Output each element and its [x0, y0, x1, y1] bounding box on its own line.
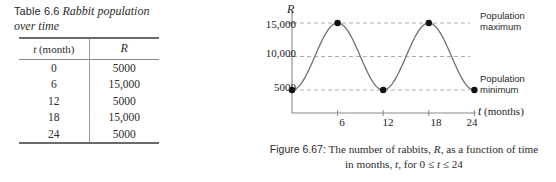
table-row: 0 5000: [19, 60, 159, 77]
figure-caption-line2-b: , for 0 ≤: [398, 158, 437, 170]
plot-area: R 15,000 10,000 5000 6 12 18 24 t (month…: [252, 0, 556, 140]
column-header-R: R: [89, 39, 159, 59]
cell-R: 5000: [89, 126, 159, 144]
table-number: Table 6.6: [14, 5, 60, 17]
y-tick-label-10000: 10,000: [252, 47, 296, 59]
x-tick-label-6: 6: [332, 116, 352, 128]
cell-t: 0: [19, 60, 89, 77]
annotation-min-line1: Population: [480, 74, 525, 85]
y-axis-label: R: [287, 2, 294, 17]
cell-R: 5000: [89, 60, 159, 77]
table-caption: Table 6.6 Rabbit population over time: [14, 4, 214, 34]
column-header-R-symbol: R: [121, 41, 128, 55]
cell-R: 15,000: [89, 109, 159, 126]
figure-caption: Figure 6.67: The number of rabbits, R, a…: [252, 142, 556, 171]
annotation-max-line1: Population: [480, 11, 525, 22]
figure-caption-line1-a: The number of rabbits,: [326, 143, 434, 155]
table-row: 18 15,000: [19, 109, 159, 126]
cell-t: 12: [19, 93, 89, 110]
figure-caption-line2-c: ≤ 24: [440, 158, 463, 170]
figure-caption-symbol-R: R: [434, 143, 441, 155]
annotation-population-maximum: Population maximum: [480, 11, 525, 32]
table-row: 12 5000: [19, 93, 159, 110]
data-point: [380, 87, 386, 93]
data-point: [334, 20, 340, 26]
cell-t: 24: [19, 126, 89, 144]
table-header-row: t (month) R: [19, 39, 159, 59]
cell-R: 15,000: [89, 76, 159, 93]
cell-t: 18: [19, 109, 89, 126]
annotation-min-line2: minimum: [480, 85, 525, 96]
figure-caption-line2-a: in months,: [345, 158, 395, 170]
x-axis-label-unit: (months): [481, 105, 523, 117]
figure-caption-line1-b: , as a function of time: [441, 143, 539, 155]
annotation-population-minimum: Population minimum: [480, 74, 525, 95]
column-header-t-unit: (month): [36, 43, 74, 55]
table-row: 6 15,000: [19, 76, 159, 93]
x-tick-label-18: 18: [426, 116, 446, 128]
table-block: Table 6.6 Rabbit population over time t …: [14, 4, 229, 34]
figure-block: R 15,000 10,000 5000 6 12 18 24 t (month…: [252, 0, 556, 182]
cell-R: 5000: [89, 93, 159, 110]
x-tick-label-12: 12: [378, 116, 398, 128]
table-rule-bottom: [19, 143, 159, 144]
data-point: [471, 87, 477, 93]
table-title-line2: over time: [14, 19, 214, 34]
y-tick-label-15000: 15,000: [252, 18, 296, 30]
y-tick-label-5000: 5000: [252, 81, 296, 93]
rabbit-population-table: t (month) R 0 5000 6 15,000 12 5000 18 1…: [19, 37, 159, 144]
figure-number: Figure 6.67:: [270, 143, 326, 155]
x-axis-label: t (months): [478, 104, 524, 119]
table-title-line1: Rabbit population: [62, 4, 149, 18]
cell-t: 6: [19, 76, 89, 93]
annotation-max-line2: maximum: [480, 22, 525, 33]
table-row: 24 5000: [19, 126, 159, 144]
data-point: [426, 20, 432, 26]
column-header-t: t (month): [19, 39, 89, 59]
